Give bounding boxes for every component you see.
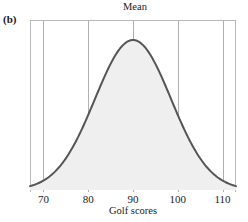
chart-title: Mean [0, 1, 248, 14]
curve-fill-area [30, 40, 236, 190]
x-tick-90: 90 [113, 193, 153, 205]
x-tick-110: 110 [203, 193, 243, 205]
panel-letter: (b) [3, 14, 16, 25]
x-axis-label: Golf scores [30, 205, 236, 218]
distribution-curve [30, 20, 236, 192]
plot-area [30, 20, 236, 192]
x-tick-100: 100 [158, 193, 198, 205]
x-tick-80: 80 [68, 193, 108, 205]
figure-panel: (b) Mean Frequency 708090100110 Golf sco… [0, 0, 248, 222]
x-tick-70: 70 [23, 193, 63, 205]
